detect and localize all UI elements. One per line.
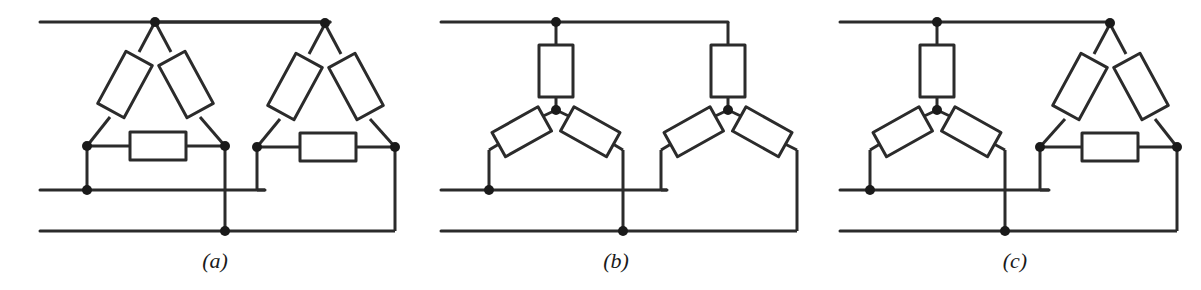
resistor-a1-left <box>98 51 153 117</box>
node-dot <box>1172 142 1182 152</box>
left-wye-c <box>870 22 1005 231</box>
node-dot <box>220 141 230 151</box>
delta-a2-right-lower-lead <box>370 119 395 147</box>
delta-a1-left-lower-lead <box>87 117 110 146</box>
panel-c <box>840 17 1182 236</box>
right-delta-a <box>155 22 395 231</box>
delta-c2-left-lower-lead <box>1040 119 1065 147</box>
resistor-a2-bottom <box>300 133 356 161</box>
wye-b2-right-outer-lead <box>785 144 797 150</box>
delta-c2-left-upper-lead <box>1094 24 1110 54</box>
resistor-a1-right <box>159 51 214 117</box>
resistor-c1-left <box>873 107 933 157</box>
node-dot <box>484 185 494 195</box>
node-dot <box>932 17 942 27</box>
node-dot <box>723 105 733 115</box>
resistor-b2-vertical <box>711 45 745 97</box>
panel-caption-c: (c) <box>955 248 1075 274</box>
node-dot <box>1035 142 1045 152</box>
resistor-b1-right <box>561 107 621 157</box>
delta-a2-left-upper-lead <box>309 24 325 54</box>
wye-b1-left-outer-lead <box>489 144 499 150</box>
resistor-b1-vertical <box>539 45 573 97</box>
resistor-c2-right <box>1114 53 1169 119</box>
node-dot <box>390 142 400 152</box>
resistor-b2-left <box>664 107 724 157</box>
delta-a2-right-upper-lead <box>325 24 341 54</box>
right-delta-c <box>1005 24 1177 231</box>
panel-caption-b: (b) <box>556 248 676 274</box>
circuit-diagram-svg <box>0 0 1201 290</box>
node-dot <box>551 17 561 27</box>
node-dot <box>150 17 160 27</box>
right-wye-b <box>623 22 797 231</box>
delta-c2-right-upper-lead <box>1110 24 1126 54</box>
resistor-a1-bottom <box>130 132 186 160</box>
resistor-c2-bottom <box>1082 133 1138 161</box>
node-dot <box>82 185 92 195</box>
panel-caption-a: (a) <box>155 248 275 274</box>
node-dot <box>1000 226 1010 236</box>
wye-c1-right-outer-lead <box>994 144 1005 150</box>
delta-c2-right-lower-lead <box>1155 119 1177 147</box>
node-dot <box>865 185 875 195</box>
node-dot <box>220 226 230 236</box>
node-dot <box>252 142 262 152</box>
node-dot <box>82 141 92 151</box>
node-dot <box>320 18 330 28</box>
delta-a1-right-lower-lead <box>200 117 225 146</box>
wye-b2-left-outer-lead <box>661 144 671 150</box>
resistor-c1-right <box>942 107 1002 157</box>
panel-b <box>441 17 797 236</box>
resistor-b2-right <box>733 107 793 157</box>
resistor-c2-left <box>1053 53 1108 119</box>
delta-a1-right-upper-lead <box>155 22 171 52</box>
wye-c1-left-outer-lead <box>870 144 880 150</box>
left-wye-b <box>489 22 623 231</box>
node-dot <box>618 226 628 236</box>
node-dot <box>1105 18 1115 28</box>
resistor-b1-left <box>492 107 552 157</box>
node-dot <box>932 105 942 115</box>
node-dot <box>551 105 561 115</box>
resistor-c1-vertical <box>920 45 954 97</box>
junction-dots-a <box>82 17 400 236</box>
circuit-figure: (a) (b) (c) <box>0 0 1201 290</box>
resistor-a2-right <box>329 53 384 119</box>
delta-a1-left-upper-lead <box>139 22 155 52</box>
resistor-a2-left <box>268 53 323 119</box>
wye-b1-right-outer-lead <box>613 144 623 150</box>
delta-a2-left-lower-lead <box>257 119 280 147</box>
panel-a <box>40 17 400 236</box>
left-delta-a <box>87 22 225 231</box>
